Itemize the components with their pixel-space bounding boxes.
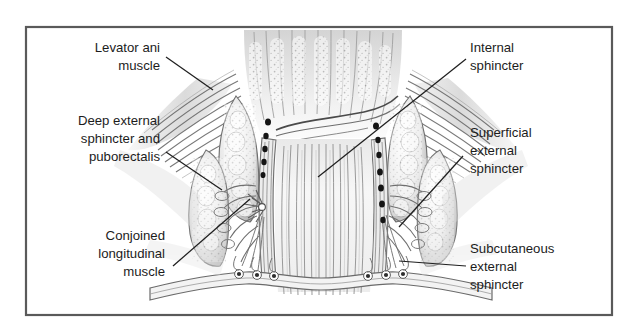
label-subcutaneous-external-sphincter-line3: sphincter bbox=[470, 277, 524, 292]
anal-canal-lumen bbox=[275, 139, 373, 295]
label-deep-external-sphincter: Deep external sphincter and puborectalis bbox=[78, 113, 161, 164]
label-subcutaneous-external-sphincter-line2: external bbox=[470, 259, 517, 274]
label-deep-external-sphincter-line2: sphincter and bbox=[81, 131, 160, 146]
label-superficial-external-sphincter-line1: Superficial bbox=[470, 125, 532, 140]
label-internal-sphincter-line1: Internal bbox=[470, 40, 514, 55]
label-conjoined-longitudinal-muscle-line1: Conjoined bbox=[106, 228, 165, 243]
label-internal-sphincter-line2: sphincter bbox=[470, 58, 524, 73]
label-subcutaneous-external-sphincter-line1: Subcutaneous bbox=[470, 241, 555, 256]
label-conjoined-longitudinal-muscle-line3: muscle bbox=[123, 264, 165, 279]
label-levator-ani-line1: Levator ani bbox=[95, 40, 160, 55]
label-levator-ani-line2: muscle bbox=[118, 58, 160, 73]
anatomy-illustration-svg: Levator ani muscle Deep external sphinct… bbox=[0, 0, 642, 328]
label-superficial-external-sphincter-line3: sphincter bbox=[470, 161, 524, 176]
label-superficial-external-sphincter-line2: external bbox=[470, 143, 517, 158]
label-deep-external-sphincter-line1: Deep external bbox=[78, 113, 160, 128]
label-conjoined-longitudinal-muscle-line2: longitudinal bbox=[98, 246, 165, 261]
anatomy-figure: Levator ani muscle Deep external sphinct… bbox=[0, 0, 642, 328]
label-deep-external-sphincter-line3: puborectalis bbox=[89, 149, 161, 164]
